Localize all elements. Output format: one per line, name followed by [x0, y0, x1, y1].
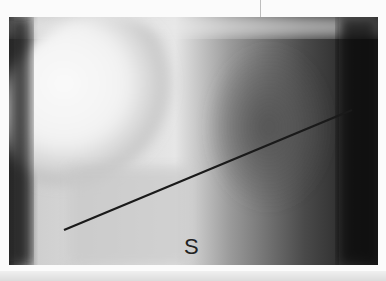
page-edge — [0, 271, 386, 281]
xray-graphic — [9, 17, 378, 265]
region-label: S — [184, 236, 199, 258]
xray-image: S — [9, 17, 378, 265]
